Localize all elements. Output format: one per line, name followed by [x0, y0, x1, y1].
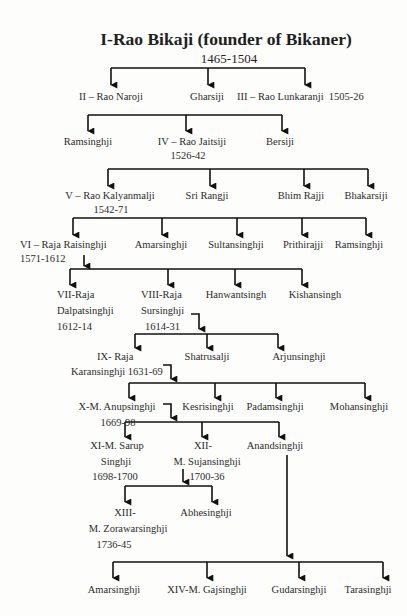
- node-anup-line1: X-M. Anupsinghji: [78, 401, 155, 413]
- node-anup-years: 1669-98: [101, 417, 136, 429]
- node-kishansingh: Kishansingh: [289, 289, 342, 301]
- node-anandsinghji: Anandsinghji: [247, 440, 304, 452]
- node-srirangji: Sri Rangji: [186, 190, 229, 202]
- node-prithirajji: Prithirajji: [283, 239, 323, 251]
- node-sarup-years: 1698-1700: [92, 471, 138, 483]
- node-sujan-line1: XII-: [194, 440, 212, 452]
- node-abhesinghji: Abhesinghji: [180, 507, 231, 519]
- title-years: 1465-1504: [201, 51, 257, 67]
- node-bersiji: Bersiji: [266, 136, 294, 148]
- node-lunkaranji: III – Rao Lunkaranji 1505-26: [237, 91, 364, 103]
- node-hanwantsingh: Hanwantsingh: [206, 289, 267, 301]
- node-mohansinghji: Mohansinghji: [330, 401, 388, 413]
- node-karan-line1: IX- Raja: [97, 351, 133, 363]
- node-bhakarsiji: Bhakarsiji: [344, 190, 387, 202]
- node-bhimrajji: Bhim Rajji: [278, 190, 324, 202]
- node-dalpat-line2: Dalpatsinghji: [57, 305, 114, 317]
- family-tree-diagram: I-Rao Bikaji (founder of Bikaner) 1465-1…: [0, 0, 407, 616]
- node-sujan-line2: M. Sujansinghji: [173, 456, 240, 468]
- node-sarup-line2: Singhji: [101, 456, 131, 468]
- node-arjunsinghji: Arjunsinghji: [272, 351, 325, 363]
- node-sur-line2: Sursinghji: [141, 305, 184, 317]
- node-sarup-line1: XI-M. Sarup: [90, 440, 144, 452]
- node-sujan-years: 1700-36: [190, 471, 225, 483]
- node-jaitsiji-years: 1526-42: [171, 150, 206, 162]
- node-ramsinghji-gen3: Ramsinghji: [64, 136, 112, 148]
- node-zorawar-years: 1736-45: [97, 539, 132, 551]
- node-raisinghji-years: 1571-1612: [20, 253, 66, 265]
- node-jaitsiji: IV – Rao Jaitsiji: [158, 136, 226, 148]
- node-naroji: II – Rao Naroji: [79, 91, 143, 103]
- node-gudarsinghji: Gudarsinghji: [272, 584, 327, 596]
- diagram-title: I-Rao Bikaji (founder of Bikaner): [100, 29, 352, 50]
- node-padamsinghji: Padamsinghji: [246, 401, 303, 413]
- node-karan-line2: Karansinghji 1631-69: [71, 366, 163, 378]
- node-sur-years: 1614-31: [145, 321, 180, 333]
- node-kesrisinghji: Kesrisinghji: [182, 401, 233, 413]
- node-tarasinghji: Tarasinghji: [344, 584, 391, 596]
- node-kalyanmalji-years: 1542-71: [94, 204, 129, 216]
- node-gharsiji: Gharsiji: [190, 91, 224, 103]
- node-dalpat-years: 1612-14: [57, 321, 92, 333]
- node-zorawar-line2: M. Zorawarsinghji: [89, 523, 168, 535]
- node-zorawar-line1: XIII-: [114, 507, 136, 519]
- node-ramsinghji-gen5: Ramsinghji: [335, 239, 383, 251]
- node-gajsinghji: XIV-M. Gajsinghji: [167, 584, 247, 596]
- node-raisinghji: VI – Raja Raisinghji: [20, 239, 107, 251]
- node-shatrusalji: Shatrusalji: [185, 351, 230, 363]
- node-sur-line1: VIII-Raja: [141, 289, 182, 301]
- node-dalpat-line1: VII-Raja: [57, 289, 94, 301]
- node-amarsinghji-gen11: Amarsinghji: [88, 584, 141, 596]
- node-sultansinghji: Sultansinghji: [208, 239, 263, 251]
- node-amarsinghji-gen5: Amarsinghji: [135, 239, 188, 251]
- node-kalyanmalji: V – Rao Kalyanmalji: [65, 190, 154, 202]
